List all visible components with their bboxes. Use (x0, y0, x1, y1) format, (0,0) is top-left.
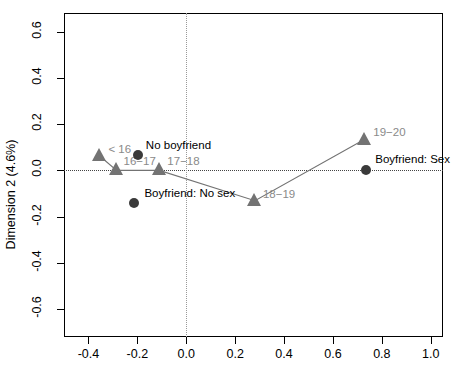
correspondence-analysis-plot: Dimension 2 (4.6%) -0.4-0.20.00.20.40.60… (0, 0, 451, 389)
y-axis-tick-label: 0.6 (30, 15, 44, 45)
y-axis-tick (57, 170, 64, 171)
x-axis-tick (431, 337, 432, 344)
y-axis-tick-label: -0.2 (30, 200, 44, 230)
x-axis-tick (382, 337, 383, 344)
y-axis-tick (57, 78, 64, 79)
x-axis-tick-label: 0.2 (215, 347, 255, 361)
x-axis-tick (284, 337, 285, 344)
y-axis-title: Dimension 2 (4.6%) (0, 0, 22, 389)
x-axis-tick (333, 337, 334, 344)
y-axis-tick-label: 0.4 (30, 61, 44, 91)
x-axis-tick-label: 0.0 (166, 347, 206, 361)
x-axis-tick-label: -0.2 (117, 347, 157, 361)
y-axis-tick (57, 32, 64, 33)
x-axis-tick-label: -0.4 (68, 347, 108, 361)
y-axis-tick (57, 217, 64, 218)
x-axis-tick (235, 337, 236, 344)
plot-frame (64, 13, 443, 337)
vertical-reference-line (186, 13, 187, 337)
x-axis-tick-label: 1.0 (411, 347, 451, 361)
x-axis-tick-label: 0.4 (264, 347, 304, 361)
y-axis-tick (57, 263, 64, 264)
y-axis-tick-label: -0.4 (30, 246, 44, 276)
horizontal-reference-line (64, 170, 443, 171)
y-axis-tick-label: -0.6 (30, 292, 44, 322)
y-axis-tick-label: 0.2 (30, 107, 44, 137)
y-axis-tick-label: 0.0 (30, 153, 44, 183)
y-axis-tick (57, 124, 64, 125)
x-axis-tick-label: 0.6 (313, 347, 353, 361)
x-axis-tick (137, 337, 138, 344)
x-axis-tick-label: 0.8 (362, 347, 402, 361)
x-axis-tick (88, 337, 89, 344)
y-axis-tick (57, 309, 64, 310)
x-axis-tick (186, 337, 187, 344)
